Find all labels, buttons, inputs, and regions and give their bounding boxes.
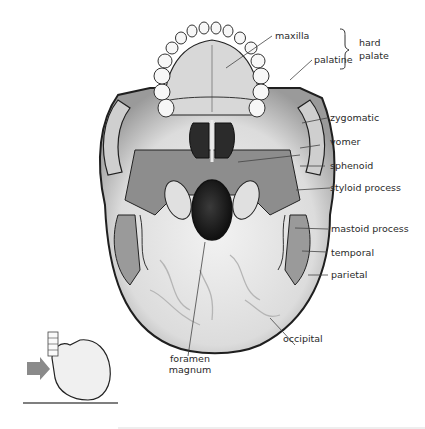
label-palate: palate (359, 50, 389, 61)
cranium (100, 88, 334, 353)
label-palatine: palatine (314, 54, 353, 65)
label-foramen: foramen (165, 353, 215, 364)
label-hard: hard (359, 37, 381, 48)
hard-palate (165, 40, 260, 115)
label-mastoid-process: mastoid process (331, 223, 409, 234)
label-maxilla: maxilla (275, 30, 309, 41)
label-parietal: parietal (331, 269, 367, 280)
label-zygomatic: zygomatic (330, 112, 379, 123)
label-occipital: occipital (283, 333, 323, 344)
label-temporal: temporal (331, 247, 374, 258)
label-vomer: vomer (330, 136, 360, 147)
label-sphenoid: sphenoid (330, 160, 373, 171)
view-arrow-icon (27, 357, 50, 380)
label-styloid-process: styloid process (330, 182, 401, 193)
label-magnum: magnum (165, 364, 215, 375)
skull-inferior-view-figure: maxilla palatine hard palate zygomatic v… (0, 0, 425, 429)
view-indicator (23, 332, 118, 403)
